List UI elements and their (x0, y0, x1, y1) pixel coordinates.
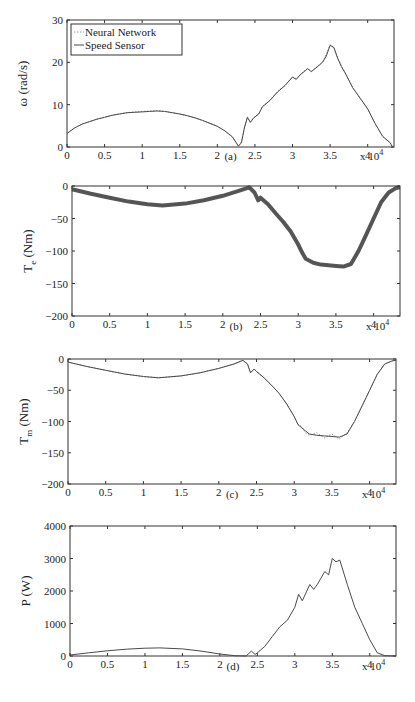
subplot-b: 00.511.522.533.540−50−100−150−200(b)x 10… (20, 180, 400, 333)
y-tick-label: 0 (58, 141, 64, 153)
x-tick-label: 2 (215, 149, 221, 161)
y-tick-label: 1000 (44, 618, 67, 630)
y-tick-label: −200 (45, 310, 68, 322)
series-speed-sensor (72, 187, 400, 266)
axes-frame (72, 186, 400, 316)
x-tick-label: 2.5 (248, 149, 262, 161)
legend: Neural NetworkSpeed Sensor (71, 24, 182, 55)
x-tick-label: 2.5 (254, 318, 268, 330)
y-tick-label: −100 (45, 245, 68, 257)
x-tick-label: 3.5 (325, 658, 339, 670)
x-tick-label: 3 (292, 658, 298, 670)
x-tick-label: 1.5 (176, 658, 190, 670)
x-tick-label: 3 (295, 318, 301, 330)
y-tick-label: 20 (52, 56, 64, 68)
legend-entry: Speed Sensor (85, 39, 145, 51)
axes-frame (68, 359, 396, 484)
x-tick-label: 1.5 (174, 486, 188, 498)
y-tick-label: 2000 (44, 585, 67, 597)
x-multiplier: x 104 (360, 148, 383, 162)
x-tick-label: 1 (139, 149, 145, 161)
series-speed-sensor (67, 45, 393, 147)
x-tick-label: 2.5 (250, 658, 264, 670)
x-tick-label: 2 (216, 486, 222, 498)
x-tick-label: 3.5 (329, 318, 343, 330)
y-tick-label: −50 (47, 384, 65, 396)
figure: 00.511.522.533.540102030(a)x 104ω (rad/s… (0, 0, 415, 702)
y-tick-label: 10 (52, 99, 64, 111)
x-tick-label: 1.5 (173, 149, 187, 161)
y-tick-label: −100 (41, 416, 64, 428)
axes-frame (70, 526, 396, 656)
x-tick-label: 0.5 (98, 149, 112, 161)
x-tick-label: 1.5 (178, 318, 192, 330)
x-multiplier: x 104 (362, 658, 385, 672)
x-tick-label: 3 (290, 149, 296, 161)
panel-label: (a) (224, 150, 237, 163)
y-tick-label: 30 (52, 14, 64, 26)
y-axis-label: P (W) (18, 576, 33, 607)
x-tick-label: 3 (291, 486, 297, 498)
legend-entry: Neural Network (85, 26, 157, 38)
x-tick-label: 0 (69, 318, 75, 330)
y-tick-label: 3000 (44, 553, 67, 565)
y-tick-label: −150 (41, 447, 64, 459)
series-neural-network (67, 45, 393, 147)
x-tick-label: 0 (64, 149, 70, 161)
x-tick-label: 0 (65, 486, 71, 498)
x-tick-label: 0.5 (103, 318, 117, 330)
subplot-a: 00.511.522.533.540102030(a)x 104ω (rad/s… (15, 14, 394, 163)
x-tick-label: 2.5 (250, 486, 264, 498)
y-tick-label: 0 (63, 180, 69, 192)
y-axis-label: Tm (Nm) (16, 398, 34, 444)
x-tick-label: 3.5 (325, 486, 339, 498)
x-multiplier: x 104 (366, 318, 389, 332)
subplot-c: 00.511.522.533.540−50−100−150−200(c)x 10… (16, 353, 396, 501)
x-tick-label: 3.5 (323, 149, 337, 161)
series-p (70, 559, 396, 657)
x-tick-label: 0.5 (101, 658, 115, 670)
x-tick-label: 1 (145, 318, 151, 330)
y-axis-label: Te (Nm) (20, 229, 38, 272)
panel-label: (b) (230, 320, 243, 333)
x-tick-label: 0.5 (99, 486, 113, 498)
y-tick-label: 0 (61, 650, 67, 662)
panel-label: (d) (227, 660, 240, 673)
y-tick-label: −200 (41, 478, 64, 490)
x-tick-label: 1 (142, 658, 148, 670)
panel-label: (c) (226, 488, 239, 501)
series-speed-sensor (68, 360, 396, 437)
y-axis-label: ω (rad/s) (15, 61, 30, 107)
subplot-d: 00.511.522.533.5401000200030004000(d)x 1… (18, 520, 396, 673)
y-tick-label: −150 (45, 278, 68, 290)
y-tick-label: 0 (59, 353, 65, 365)
x-tick-label: 2 (220, 318, 226, 330)
x-multiplier: x 104 (362, 486, 385, 500)
x-tick-label: 2 (217, 658, 223, 670)
x-tick-label: 0 (67, 658, 73, 670)
y-tick-label: −50 (51, 213, 69, 225)
x-tick-label: 1 (141, 486, 147, 498)
y-tick-label: 4000 (44, 520, 67, 532)
